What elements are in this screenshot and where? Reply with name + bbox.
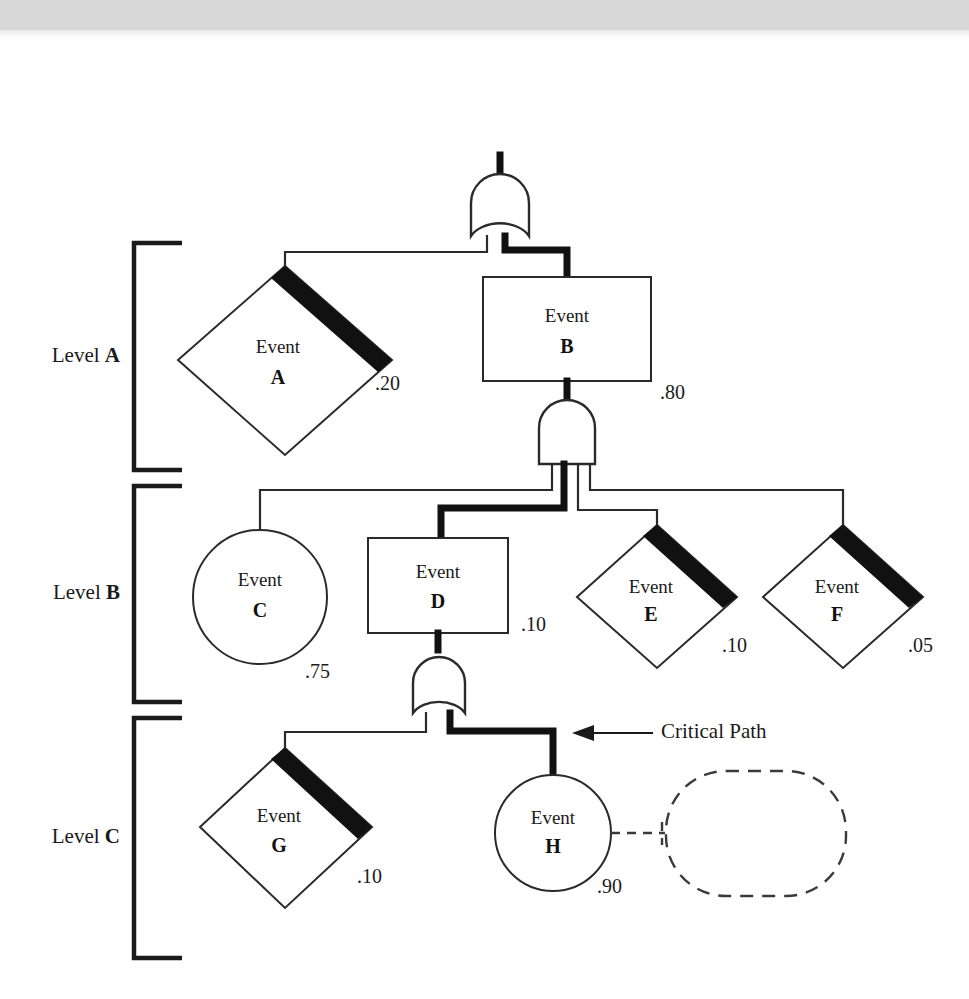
wire-gate-t-to-event-a (285, 236, 487, 266)
node-event-h[interactable]: Event H (495, 775, 611, 891)
gate-or-event-d (413, 657, 465, 713)
level-a-label: Level A (52, 343, 121, 367)
node-event-f-id: F (831, 603, 843, 625)
wire-gate-b-to-event-c (260, 464, 552, 530)
node-event-e-id: E (644, 603, 657, 625)
node-event-h-label: Event (531, 807, 576, 828)
node-event-b-label: Event (545, 305, 590, 326)
wire-gate-d-to-event-g (285, 713, 426, 748)
node-event-d-label: Event (416, 561, 461, 582)
node-event-f-label: Event (815, 576, 860, 597)
level-c-label: Level C (52, 824, 120, 848)
node-event-e[interactable]: Event E (577, 525, 737, 668)
node-event-b-id: B (560, 335, 573, 357)
node-event-f[interactable]: Event F (763, 525, 923, 668)
node-event-g-probability: .10 (357, 865, 382, 887)
node-event-d-id: D (431, 590, 445, 612)
fault-tree-canvas: Level A Level B Level C (0, 0, 969, 999)
node-event-a-probability: .20 (375, 372, 400, 394)
gate-or-top-event (471, 174, 529, 236)
wire-gate-b-to-event-f (590, 464, 843, 525)
node-event-a[interactable]: Event A (178, 266, 392, 455)
node-event-b-probability: .80 (660, 381, 685, 403)
wire-gate-t-to-event-b-critical (505, 236, 567, 277)
level-bracket-a (134, 243, 182, 470)
gate-and-event-b (539, 400, 595, 464)
level-bracket-c (134, 718, 182, 958)
level-bracket-b (134, 486, 182, 702)
node-placeholder-dashed[interactable] (666, 771, 846, 896)
critical-path-annotation-label: Critical Path (661, 719, 767, 743)
node-event-g-id: G (271, 834, 287, 856)
node-event-d[interactable]: Event D (368, 538, 508, 633)
level-b-label: Level B (53, 580, 120, 604)
dashed-connector (611, 822, 665, 845)
critical-path-arrow-icon (572, 725, 653, 741)
wire-gate-d-to-event-h-critical (450, 713, 553, 776)
node-event-c-probability: .75 (305, 660, 330, 682)
node-event-f-probability: .05 (908, 634, 933, 656)
node-event-e-probability: .10 (722, 634, 747, 656)
wire-gate-b-to-event-d-critical (441, 464, 564, 538)
node-event-a-id: A (271, 366, 286, 388)
node-event-c-id: C (253, 599, 267, 621)
node-event-a-label: Event (256, 336, 301, 357)
node-event-c-label: Event (238, 569, 283, 590)
node-event-h-probability: .90 (597, 875, 622, 897)
fault-tree-page: Level A Level B Level C (0, 0, 969, 999)
node-event-g-label: Event (257, 805, 302, 826)
node-event-g[interactable]: Event G (200, 748, 372, 908)
node-event-e-label: Event (629, 576, 674, 597)
node-event-c[interactable]: Event C (193, 530, 327, 664)
node-event-d-probability: .10 (521, 613, 546, 635)
node-event-h-id: H (545, 835, 561, 857)
node-event-b[interactable]: Event B (483, 277, 651, 381)
